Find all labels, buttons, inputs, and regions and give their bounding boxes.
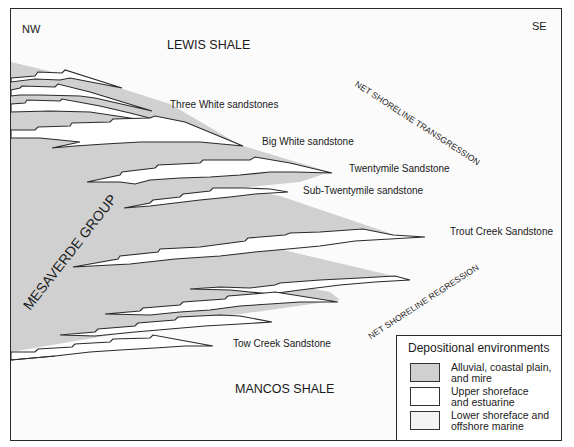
lewis-shale-label: LEWIS SHALE [167, 38, 250, 52]
unit-label-sub-twentymile: Sub-Twentymile sandstone [303, 185, 423, 196]
nw-label: NW [22, 23, 40, 35]
unit-label-tow-creek: Tow Creek Sandstone [233, 338, 331, 349]
swatch-upper-shoreface [410, 387, 440, 406]
legend-item-label: and mire [451, 373, 561, 384]
legend-item-label: offshore marine [451, 421, 561, 432]
unit-label-big-white: Big White sandstone [262, 136, 354, 147]
se-label: SE [532, 20, 547, 32]
unit-label-twentymile: Twentymile Sandstone [349, 163, 450, 174]
legend-title: Depositional environments [408, 341, 549, 355]
swatch-alluvial [410, 363, 440, 382]
mancos-shale-label: MANCOS SHALE [235, 382, 334, 396]
unit-label-three-white: Three White sandstones [170, 99, 278, 110]
legend: Depositional environments Alluvial, coas… [396, 335, 562, 441]
legend-item-label: and estuarine [451, 397, 561, 408]
unit-label-trout-creek: Trout Creek Sandstone [450, 226, 553, 237]
swatch-offshore [410, 411, 440, 430]
